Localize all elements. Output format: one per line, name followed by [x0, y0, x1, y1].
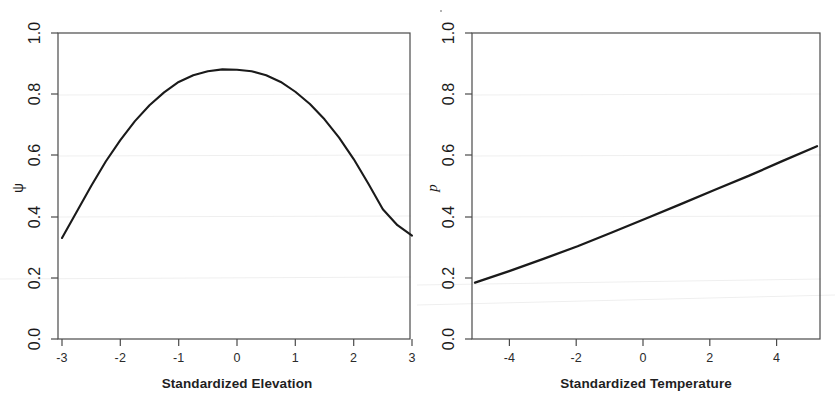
right-ytick-1: 0.2 — [432, 270, 466, 286]
figure-canvas: 0.0 0.2 0.4 0.6 0.8 1.0 -3 -2 -1 0 1 2 3… — [0, 0, 835, 405]
left-ytick-label-1: 0.2 — [27, 261, 43, 295]
left-ytick-label-5: 1.0 — [27, 16, 43, 50]
left-x-axis-title: Standardized Elevation — [162, 376, 313, 391]
left-ytick-4: 0.8 — [18, 86, 52, 102]
left-ytick-5: 1.0 — [18, 25, 52, 41]
right-xtick-label-4: 4 — [773, 351, 780, 365]
right-xtick-label-3: 2 — [706, 351, 713, 365]
left-xtick-label-3: 0 — [233, 351, 240, 365]
right-ytick-label-2: 0.4 — [441, 200, 457, 234]
right-ytick-label-4: 0.8 — [441, 77, 457, 111]
right-ytick-label-3: 0.6 — [441, 138, 457, 172]
right-ytick-label-1: 0.2 — [441, 261, 457, 295]
scan-streaks-right — [417, 94, 835, 305]
left-xtick-label-0: -3 — [56, 351, 68, 365]
right-y-axis-title-wrap: p — [402, 178, 462, 198]
right-xtick-label-2: 0 — [639, 351, 646, 365]
right-xtick-label-0: -4 — [504, 351, 516, 365]
right-ytick-label-0: 0.0 — [441, 322, 457, 356]
left-y-axis-title-wrap: ψ — [0, 178, 48, 198]
left-xtick-label-5: 2 — [350, 351, 357, 365]
left-xtick-label-1: -2 — [115, 351, 127, 365]
right-ytick-4: 0.8 — [432, 86, 466, 102]
left-y-axis-title: ψ — [8, 158, 28, 218]
right-xtick-label-1: -2 — [570, 351, 582, 365]
right-plot-frame — [472, 33, 820, 339]
left-plot-svg — [0, 0, 418, 405]
chart-panel-left: 0.0 0.2 0.4 0.6 0.8 1.0 -3 -2 -1 0 1 2 3… — [0, 0, 418, 405]
left-plot-frame — [58, 33, 410, 339]
left-xtick-label-2: -1 — [173, 351, 185, 365]
left-ytick-0: 0.0 — [18, 331, 52, 347]
right-y-axis-title: p — [422, 158, 442, 218]
right-x-axis-title: Standardized Temperature — [560, 376, 732, 391]
right-x-ticks — [509, 339, 776, 346]
left-ytick-label-3: 0.6 — [27, 138, 43, 172]
left-ytick-label-4: 0.8 — [27, 77, 43, 111]
right-data-curve — [475, 146, 817, 282]
left-xtick-label-4: 1 — [292, 351, 299, 365]
right-y-ticks — [465, 33, 472, 339]
left-ytick-label-2: 0.4 — [27, 200, 43, 234]
right-ytick-5: 1.0 — [432, 25, 466, 41]
scan-streaks — [0, 94, 411, 279]
left-ytick-1: 0.2 — [18, 270, 52, 286]
chart-panel-right: 0.0 0.2 0.4 0.6 0.8 1.0 -4 -2 0 2 4 Stan… — [417, 0, 835, 405]
left-ytick-label-0: 0.0 — [27, 322, 43, 356]
left-y-ticks — [51, 33, 58, 339]
left-xtick-label-6: 3 — [408, 351, 415, 365]
right-ytick-label-5: 1.0 — [441, 16, 457, 50]
right-plot-svg — [417, 0, 835, 405]
right-ytick-0: 0.0 — [432, 331, 466, 347]
left-x-ticks — [62, 339, 412, 346]
